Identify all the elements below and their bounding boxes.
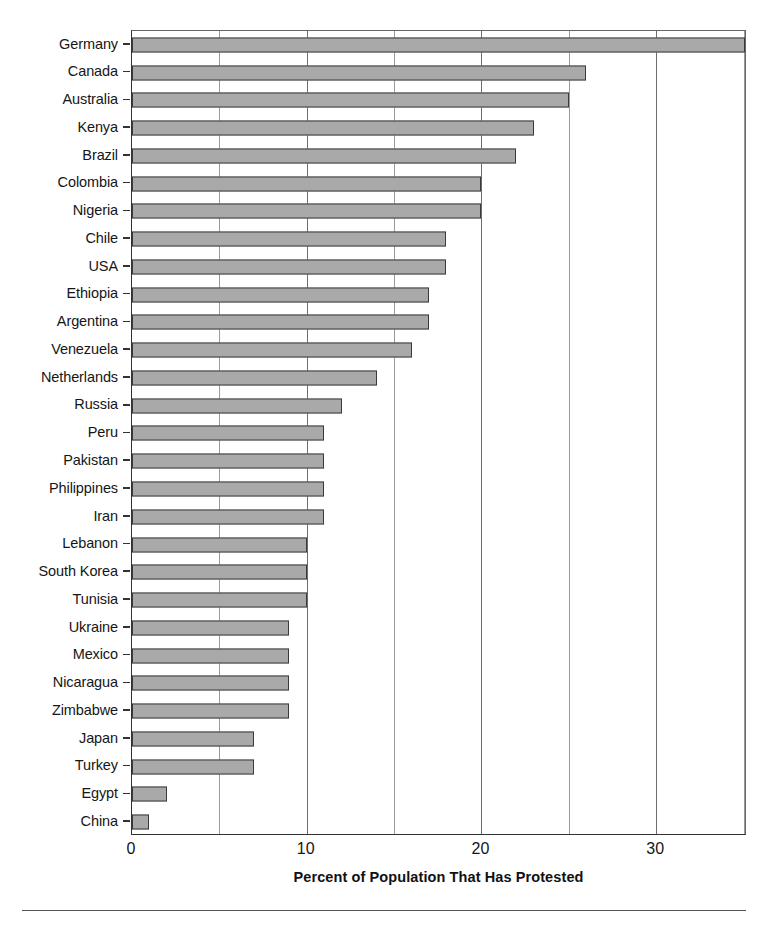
bar-germany bbox=[132, 37, 745, 52]
bar-peru bbox=[132, 426, 324, 441]
bar-egypt bbox=[132, 787, 167, 802]
bar-philippines bbox=[132, 482, 324, 497]
bar-row bbox=[132, 225, 745, 253]
y-label-ethiopia: Ethiopia bbox=[66, 286, 120, 301]
bar-row bbox=[132, 475, 745, 503]
bar-row bbox=[132, 697, 745, 725]
y-tick-mark bbox=[123, 820, 130, 822]
y-tick-mark bbox=[123, 765, 130, 767]
y-label-kenya: Kenya bbox=[77, 120, 120, 135]
bar-south-korea bbox=[132, 565, 307, 580]
bar-pakistan bbox=[132, 454, 324, 469]
bar-row bbox=[132, 447, 745, 475]
y-label-nicaragua: Nicaragua bbox=[53, 675, 120, 690]
bar-row bbox=[132, 392, 745, 420]
y-label-zimbabwe: Zimbabwe bbox=[52, 703, 120, 718]
bar-canada bbox=[132, 65, 586, 80]
chart-figure: GermanyCanadaAustraliaKenyaBrazilColombi… bbox=[0, 0, 766, 925]
y-tick-mark bbox=[123, 293, 130, 295]
y-label-row: Iran bbox=[0, 502, 131, 530]
bar-row bbox=[132, 31, 745, 59]
y-tick-mark bbox=[123, 654, 130, 656]
y-label-row: USA bbox=[0, 252, 131, 280]
bar-row bbox=[132, 503, 745, 531]
bar-row bbox=[132, 170, 745, 198]
bar-venezuela bbox=[132, 343, 412, 358]
y-tick-mark bbox=[123, 793, 130, 795]
y-tick-mark bbox=[123, 376, 130, 378]
y-tick-mark bbox=[123, 182, 130, 184]
y-axis-category-labels: GermanyCanadaAustraliaKenyaBrazilColombi… bbox=[0, 30, 131, 835]
y-label-canada: Canada bbox=[68, 64, 120, 79]
y-tick-mark bbox=[123, 626, 130, 628]
y-label-argentina: Argentina bbox=[57, 314, 120, 329]
y-label-chile: Chile bbox=[85, 231, 120, 246]
plot-area bbox=[131, 30, 746, 835]
y-label-australia: Australia bbox=[62, 92, 120, 107]
y-label-row: Mexico bbox=[0, 641, 131, 669]
y-label-russia: Russia bbox=[74, 397, 120, 412]
y-label-turkey: Turkey bbox=[75, 758, 120, 773]
y-label-row: Colombia bbox=[0, 169, 131, 197]
y-tick-mark bbox=[123, 570, 130, 572]
bar-row bbox=[132, 420, 745, 448]
y-label-south-korea: South Korea bbox=[38, 564, 120, 579]
y-label-germany: Germany bbox=[59, 37, 120, 52]
y-tick-mark bbox=[123, 737, 130, 739]
y-label-row: Argentina bbox=[0, 308, 131, 336]
y-label-netherlands: Netherlands bbox=[41, 370, 120, 385]
y-label-row: Pakistan bbox=[0, 446, 131, 474]
y-tick-mark bbox=[123, 71, 130, 73]
y-label-row: Peru bbox=[0, 419, 131, 447]
y-tick-mark bbox=[123, 210, 130, 212]
bar-row bbox=[132, 642, 745, 670]
y-label-row: South Korea bbox=[0, 557, 131, 585]
bar-mexico bbox=[132, 648, 289, 663]
x-axis-title: Percent of Population That Has Protested bbox=[131, 869, 746, 885]
bar-iran bbox=[132, 509, 324, 524]
y-label-china: China bbox=[81, 814, 120, 829]
y-label-row: Canada bbox=[0, 58, 131, 86]
x-tick-label-30: 30 bbox=[646, 840, 664, 858]
y-label-row: Ethiopia bbox=[0, 280, 131, 308]
y-label-row: Egypt bbox=[0, 779, 131, 807]
bar-row bbox=[132, 586, 745, 614]
y-label-row: Lebanon bbox=[0, 530, 131, 558]
y-label-row: Ukraine bbox=[0, 613, 131, 641]
bar-russia bbox=[132, 398, 342, 413]
y-label-row: Tunisia bbox=[0, 585, 131, 613]
y-tick-mark bbox=[123, 682, 130, 684]
y-tick-mark bbox=[123, 543, 130, 545]
bar-ethiopia bbox=[132, 287, 429, 302]
y-label-row: China bbox=[0, 807, 131, 835]
y-label-colombia: Colombia bbox=[58, 175, 120, 190]
y-label-lebanon: Lebanon bbox=[62, 536, 120, 551]
y-label-row: Japan bbox=[0, 724, 131, 752]
bar-row bbox=[132, 780, 745, 808]
y-label-nigeria: Nigeria bbox=[73, 203, 120, 218]
y-label-row: Russia bbox=[0, 391, 131, 419]
y-label-row: Nigeria bbox=[0, 197, 131, 225]
bar-rows bbox=[132, 31, 745, 834]
bar-row bbox=[132, 253, 745, 281]
bar-row bbox=[132, 198, 745, 226]
bar-netherlands bbox=[132, 370, 377, 385]
y-label-row: Zimbabwe bbox=[0, 696, 131, 724]
y-label-row: Chile bbox=[0, 224, 131, 252]
x-tick-label-10: 10 bbox=[297, 840, 315, 858]
bar-ukraine bbox=[132, 620, 289, 635]
bar-row bbox=[132, 87, 745, 115]
bar-china bbox=[132, 815, 149, 830]
bar-row bbox=[132, 725, 745, 753]
y-label-row: Australia bbox=[0, 86, 131, 114]
bar-turkey bbox=[132, 759, 254, 774]
y-label-mexico: Mexico bbox=[73, 647, 120, 662]
y-tick-mark bbox=[123, 99, 130, 101]
y-label-usa: USA bbox=[88, 259, 120, 274]
bar-row bbox=[132, 808, 745, 836]
y-label-row: Philippines bbox=[0, 474, 131, 502]
y-label-row: Venezuela bbox=[0, 335, 131, 363]
y-label-row: Kenya bbox=[0, 113, 131, 141]
bar-tunisia bbox=[132, 593, 307, 608]
bar-row bbox=[132, 669, 745, 697]
